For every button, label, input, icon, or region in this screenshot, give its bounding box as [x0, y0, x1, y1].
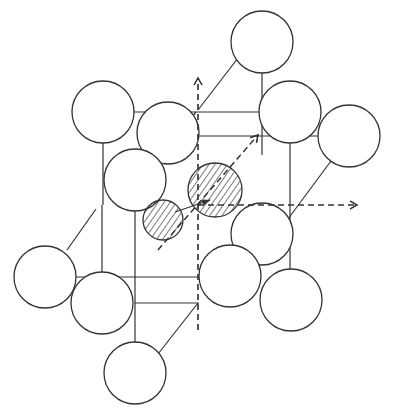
bond-line — [198, 58, 238, 110]
atom-far-right — [318, 105, 380, 167]
atom-front-lower — [199, 245, 261, 307]
atom-left — [14, 246, 76, 308]
small-interstitial-atom — [143, 200, 183, 240]
bond-line — [67, 209, 96, 250]
crystal-lattice-diagram — [0, 0, 394, 415]
atom-lower-left — [71, 272, 133, 334]
atom-top — [231, 11, 293, 73]
atom-upper-right — [259, 81, 321, 143]
atom-lower-right — [260, 269, 322, 331]
bond-line — [158, 303, 198, 354]
large-interstitial-atom — [188, 163, 242, 217]
atom-bottom — [104, 342, 166, 404]
atom-upper-left — [72, 81, 134, 143]
